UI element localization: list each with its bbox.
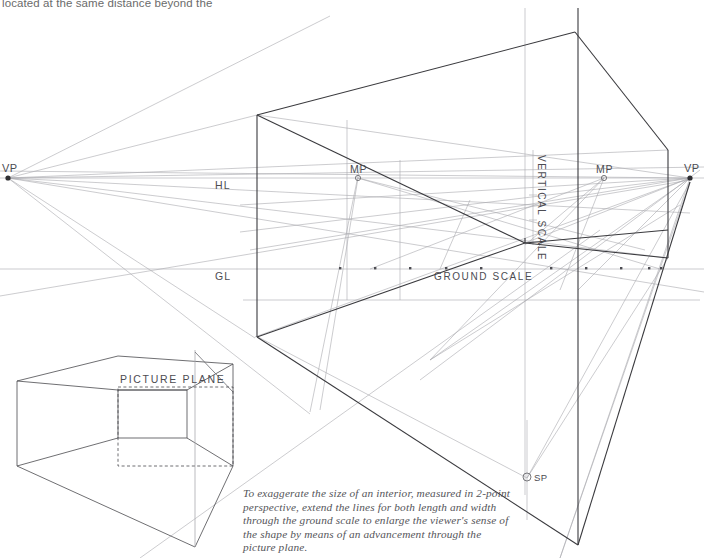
ground-tick (620, 267, 622, 269)
label-vp-right: VP (684, 162, 699, 174)
label-horizon-line: HL (215, 179, 231, 191)
ray-vpl-5 (8, 178, 668, 258)
ray-sp-left (258, 337, 527, 478)
box-top-right-slope (575, 32, 668, 150)
ray-vpr-3 (0, 171, 690, 178)
ground-tick (585, 267, 587, 269)
diagonal-extend-1 (310, 166, 360, 412)
inset-converge-bl (17, 438, 118, 466)
ray-mpr-4 (560, 178, 604, 290)
ground-tick (445, 267, 447, 269)
ray-mpl-1 (320, 178, 358, 410)
label-ground-scale: GROUND SCALE (434, 271, 533, 282)
inset-outer-bottom (17, 466, 233, 547)
label-vp-left: VP (2, 162, 17, 174)
ground-tick (648, 267, 650, 269)
label-vertical-scale: VERTICAL SCALE (536, 155, 547, 261)
ray-mpr-3 (370, 178, 604, 269)
ray-mpl-2 (358, 178, 660, 269)
inset-splay-top (195, 352, 233, 392)
diagram-page: located at the same distance beyond the (0, 0, 704, 558)
vp-left-marker (5, 175, 10, 180)
inset-back-wall (118, 390, 187, 438)
inset-converge-tl (17, 381, 118, 390)
inset-picture-plane-rect (118, 387, 233, 466)
ground-tick (550, 267, 552, 269)
label-ground-line: GL (215, 270, 231, 282)
figure-caption: To exaggerate the size of an interior, m… (243, 487, 513, 555)
ray-vpl-4 (8, 178, 690, 213)
label-mp-right: MP (596, 163, 613, 175)
label-station-point: SP (534, 472, 548, 483)
ray-sp-up (527, 258, 668, 478)
ray-vpl-8 (8, 178, 255, 338)
inset-converge-br (187, 438, 233, 466)
perspective-construction-diagram: VP VP MP MP HL GL SP GROUND SCALE VERTIC… (0, 0, 704, 558)
vp-right-marker (687, 175, 692, 180)
ground-tick (374, 267, 376, 269)
diagonal-extend-2 (440, 200, 470, 269)
ray-vpl-1 (8, 16, 330, 178)
ray-vpl-9 (8, 115, 257, 178)
ground-tick (660, 267, 662, 269)
ray-vpr-5 (250, 178, 690, 250)
label-picture-plane: PICTURE PLANE (120, 373, 226, 385)
box-top-edge-left (257, 32, 575, 115)
ground-tick (409, 267, 411, 269)
ground-tick (480, 267, 482, 269)
picture-plane-outline (118, 387, 233, 466)
ground-tick (339, 267, 341, 269)
diagonal-lower-left (0, 180, 690, 296)
label-mp-left: MP (350, 163, 367, 175)
box-interior-diag (257, 243, 525, 337)
